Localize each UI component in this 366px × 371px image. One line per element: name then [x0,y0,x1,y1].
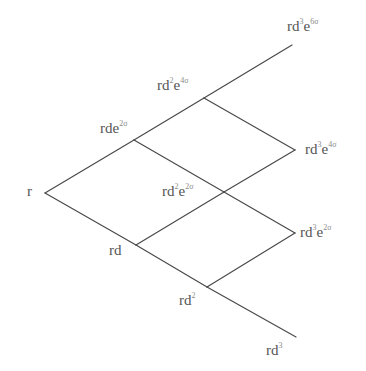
node-label-rd3: rd3 [266,343,283,358]
node-label-rd2: rd2 [179,293,196,308]
edge-rd-rd2e2 [136,192,224,245]
label-base: r [27,183,32,199]
label-base: rd [157,77,170,93]
label-exponent: 4σ [180,76,188,85]
label-base: rd [162,183,175,199]
edge-rd2e2-rd3e2 [224,192,295,233]
edge-r-rd [45,193,136,245]
label-exponent: 6σ [310,17,318,26]
label-exponent: 2 [175,182,179,191]
node-label-rde2s: rde2σ [100,121,127,136]
label-base: rd [109,242,122,258]
edge-rde-rd2e4 [134,98,204,140]
label-exponent: 3 [318,140,322,149]
label-exponent: 2 [170,76,174,85]
label-exponent: 2σ [119,119,127,128]
label-base: rd [179,292,192,308]
edge-r-rde [45,140,134,193]
label-base: rd [305,141,318,157]
node-label-rd2e4s: rd2e4σ [157,78,188,93]
edge-rd2-rd3 [207,287,296,337]
node-label-r: r [27,184,32,199]
edge-rd2e2-rd3e4 [224,150,295,192]
label-exponent: 2σ [185,182,193,191]
label-exponent: 3 [279,341,283,350]
node-label-rd: rd [109,243,122,258]
node-label-rd2e2s: rd2e2σ [162,184,193,199]
edge-rd2-rd3e2 [207,233,295,287]
label-base: rd [266,342,279,358]
edge-rd2e4-rd3e6 [204,45,292,98]
node-label-rd3e2s: rd3e2σ [300,225,331,240]
edge-rd2e4-rd3e4 [204,98,295,150]
label-base: rd [287,18,300,34]
label-base: rde [100,120,119,136]
label-exponent: 3 [313,223,317,232]
node-label-rd3e4s: rd3e4σ [305,142,336,157]
label-base: rd [300,224,313,240]
label-exponent: 3 [300,17,304,26]
label-exponent: 2σ [323,223,331,232]
node-label-rd3e6s: rd3e6σ [287,19,318,34]
edge-rd-rd2 [136,245,207,287]
label-exponent: 2 [192,291,196,300]
label-exponent: 4σ [328,140,336,149]
